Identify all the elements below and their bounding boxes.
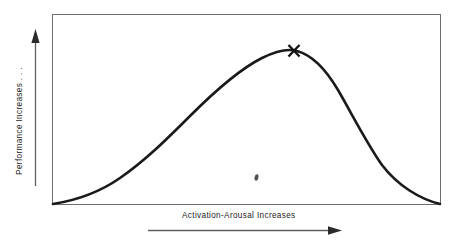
chart-canvas [0, 0, 458, 241]
x-axis-arrow [148, 226, 342, 235]
x-axis-label: Activation-Arousal Increases [182, 212, 296, 220]
y-axis-arrow [31, 29, 39, 186]
plot-frame [53, 15, 441, 205]
figure-container: Performance Increases . . . Activation-A… [0, 0, 458, 241]
y-axis-label: Performance Increases . . . [16, 67, 24, 175]
